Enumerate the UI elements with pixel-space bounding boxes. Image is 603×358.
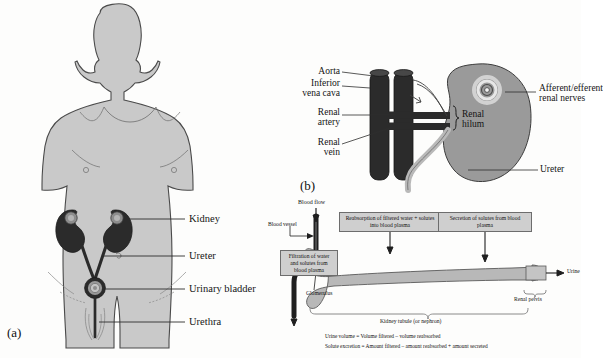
panel-c-brackets <box>310 290 546 319</box>
panel-c-label-blood-vessel: Blood vessel <box>268 221 297 228</box>
panel-c-equation-solute-excretion: Solute excretion = Amount filtered – amo… <box>325 342 488 350</box>
panel-c-label-kidney-tubule: Kidney tubule (or nephron) <box>380 318 441 325</box>
panel-b-label-renal-nerves: Afferent/efferent renal nerves <box>539 83 603 104</box>
panel-a-illustration <box>0 0 290 358</box>
panel-c-label-urine: Urine <box>567 268 580 275</box>
panel-a-body-diagram: Kidney Ureter Urinary bladder Urethra (a… <box>0 0 290 358</box>
kidney-tubule-shape <box>303 249 546 309</box>
panel-c-label-blood-flow: Blood flow <box>298 199 325 207</box>
panel-a-label-kidney: Kidney <box>189 213 220 224</box>
panel-b-label-aorta: Aorta <box>302 66 340 76</box>
panel-b-label-renal-artery: Renal artery <box>298 107 340 128</box>
panel-b-label-ureter: Ureter <box>540 164 564 174</box>
panel-c-box-reabsorption: Reabsorption of filtered water + solutes… <box>339 212 441 232</box>
panel-b-kidney-detail: Aorta Inferior vena cava Renal artery Re… <box>290 52 581 204</box>
panel-b-tag: (b) <box>300 178 315 194</box>
body-silhouette <box>42 4 193 348</box>
panel-b-label-renal-hilum: Renal hilum <box>462 109 484 130</box>
panel-c-nephron-diagram: Filtration of water and solutes from blo… <box>280 204 581 358</box>
panel-a-label-ureter: Ureter <box>189 250 216 261</box>
ureter-tube-b <box>408 130 448 190</box>
panel-c-box-secretion: Secretion of solutes from blood plasma <box>438 212 532 232</box>
panel-c-label-renal-pelvis: Renal pelvis <box>514 296 542 303</box>
panel-c-box-filtration: Filtration of water and solutes from blo… <box>280 250 338 276</box>
renal-nerve-swirl <box>474 77 500 103</box>
renal-nerve-fibres <box>410 80 447 116</box>
panel-c-label-glomerulus: Glomerulus <box>306 290 332 297</box>
panel-a-label-urinary-bladder: Urinary bladder <box>189 283 256 294</box>
panel-a-tag: (a) <box>7 325 21 341</box>
panel-a-label-urethra: Urethra <box>189 316 221 327</box>
panel-c-equation-urine-volume: Urine volume = Volume filtered – volume … <box>325 332 441 340</box>
panel-b-label-renal-vein: Renal vein <box>298 137 340 158</box>
panel-b-label-inferior-vena-cava: Inferior vena cava <box>288 78 340 99</box>
